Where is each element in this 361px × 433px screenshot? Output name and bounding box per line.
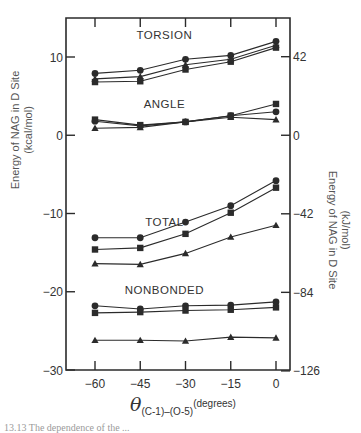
series-line-square xyxy=(95,188,276,250)
x-tick-label: −45 xyxy=(130,377,151,391)
y-tick-label-right: −42 xyxy=(293,207,314,221)
plot-frame xyxy=(66,18,290,370)
y-axis-label-right-line1: Energy of NAG in D Site xyxy=(326,110,339,350)
circle-marker xyxy=(92,234,99,241)
plot-border xyxy=(66,18,290,370)
group-label-nonbonded: NONBONDED xyxy=(125,284,204,296)
square-marker xyxy=(137,309,143,315)
x-tick-label: −60 xyxy=(85,377,106,391)
square-marker xyxy=(92,310,98,316)
circle-marker xyxy=(92,118,99,125)
y-axis-label-left: Energy of NAG in D Site (kcal/mol) xyxy=(9,30,35,230)
square-marker xyxy=(228,210,234,216)
y-axis-label-left-line1: Energy of NAG in D Site xyxy=(9,30,22,230)
x-axis-subscript: (C-1)–(O-5) xyxy=(141,406,193,417)
square-marker xyxy=(182,307,188,313)
series-line-circle xyxy=(95,181,276,238)
x-axis-symbol: θ xyxy=(130,393,141,415)
group-labels: TORSIONANGLETOTALNONBONDED xyxy=(125,29,204,296)
circle-marker xyxy=(273,108,280,115)
square-marker xyxy=(273,101,279,107)
square-marker xyxy=(92,246,98,252)
y-axis-label-left-line2: (kcal/mol) xyxy=(22,30,35,230)
square-marker xyxy=(182,66,188,72)
group-label-angle: ANGLE xyxy=(144,98,186,110)
axis-ticks: −60−45−30−150100−10−20−30420−42−84−126 xyxy=(43,18,321,391)
data-series xyxy=(91,38,279,344)
y-tick-label-left: 0 xyxy=(56,129,63,143)
square-marker xyxy=(273,304,279,310)
square-marker xyxy=(137,78,143,84)
y-tick-label-left: 10 xyxy=(50,51,64,65)
figure-caption: 13.13 The dependence of the ... xyxy=(4,422,130,433)
square-marker xyxy=(228,307,234,313)
x-axis-label: θ(C-1)–(O-5)(degrees) xyxy=(130,393,236,417)
y-axis-label-right: (kJ/mol) Energy of NAG in D Site xyxy=(326,110,352,350)
group-label-total: TOTAL xyxy=(145,216,184,228)
square-marker xyxy=(273,184,279,190)
series-group-torsion xyxy=(91,38,279,85)
y-tick-label-right: 0 xyxy=(293,129,300,143)
circle-marker xyxy=(227,202,234,209)
x-tick-label: −30 xyxy=(175,377,196,391)
series-group-nonbonded xyxy=(91,299,279,344)
x-tick-label: 0 xyxy=(273,377,280,391)
circle-marker xyxy=(273,177,280,184)
group-label-torsion: TORSION xyxy=(137,29,193,41)
y-tick-label-right: −126 xyxy=(293,364,320,378)
y-tick-label-right: −84 xyxy=(293,286,314,300)
y-tick-label-left: −30 xyxy=(43,364,64,378)
square-marker xyxy=(182,231,188,237)
y-tick-label-left: −10 xyxy=(43,207,64,221)
y-tick-label-right: 42 xyxy=(293,50,307,64)
y-axis-label-right-line2: (kJ/mol) xyxy=(339,110,352,350)
series-group-angle xyxy=(91,101,279,131)
circle-marker xyxy=(137,67,144,74)
y-tick-label-left: −20 xyxy=(43,285,64,299)
circle-marker xyxy=(137,234,144,241)
square-marker xyxy=(137,245,143,251)
square-marker xyxy=(92,79,98,85)
triangle-marker xyxy=(272,222,279,228)
square-marker xyxy=(228,58,234,64)
circle-marker xyxy=(92,302,99,309)
x-tick-label: −15 xyxy=(221,377,242,391)
series-group-total xyxy=(91,177,279,267)
square-marker xyxy=(273,44,279,50)
x-axis-unit: (degrees) xyxy=(193,398,236,409)
